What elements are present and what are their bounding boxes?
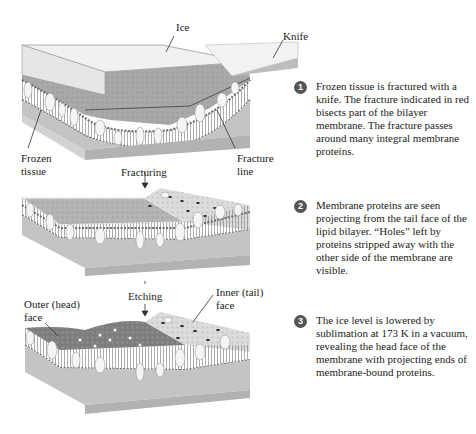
panel-3-etched-block [25,312,250,414]
ice-label: Ice [176,21,189,34]
frozen-tissue-label-line2: tissue [21,165,46,178]
outer-face-label-line2: face [24,311,42,324]
inner-face-label-line2: face [216,299,234,312]
step-description: Membrane proteins are seen projecting fr… [316,199,476,277]
panel-1-frozen-block [22,45,250,160]
step-2: 2 Membrane proteins are seen projecting … [294,199,474,269]
fracture-line-label-line1: Fracture [237,152,274,165]
step-3: 3 The ice level is lowered by sublimatio… [294,314,474,394]
etching-label: Etching [128,290,162,303]
step-number-badge: 1 [294,81,307,94]
inner-face-label-line1: Inner (tail) [216,286,263,299]
panel-2-fractured-block [22,188,250,276]
step-1: 1 Frozen tissue is fractured with a knif… [294,80,474,150]
fracturing-label: Fracturing [121,166,167,179]
step-number-badge: 2 [294,200,307,213]
frozen-tissue-label-line1: Frozen [21,152,52,165]
step-description: Frozen tissue is fractured with a knife.… [316,80,476,158]
outer-face-label-line1: Outer (head) [24,298,80,311]
knife-label: Knife [283,30,308,43]
fracture-line-label-line2: line [237,165,254,178]
step-description: The ice level is lowered by sublimation … [316,314,476,379]
step-number-badge: 3 [294,315,307,328]
